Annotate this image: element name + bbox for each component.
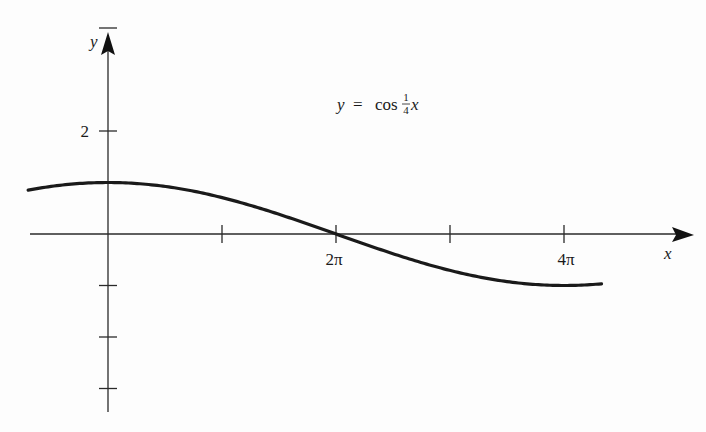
equation-equals: = [353,95,363,114]
y-axis-label: y [88,32,98,51]
x-axis-label: x [663,244,672,263]
equation-lhs: y [335,95,345,114]
x-tick-labels: 2π 4π [325,250,575,269]
axes [30,32,694,412]
equation-frac-num: 1 [403,91,409,103]
x-tick-label-4pi: 4π [557,250,575,269]
tick-marks [99,28,564,389]
equation-annotation: y = cos 1 4 x [335,91,419,116]
equation-func: cos [375,95,398,114]
equation-var: x [410,95,419,114]
equation-frac-den: 4 [403,104,409,116]
plot-area: y x 2π 4π 2 y = cos 1 4 x [0,0,706,432]
x-tick-label-2pi: 2π [325,250,343,269]
y-tick-label-2: 2 [81,122,90,141]
chart-canvas: y x 2π 4π 2 y = cos 1 4 x [0,0,706,432]
